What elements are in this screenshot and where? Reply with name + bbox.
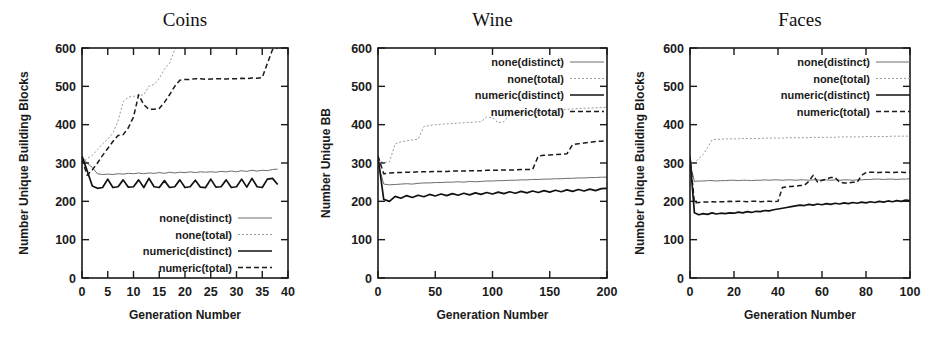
series-numerictotal xyxy=(378,141,607,174)
y-tick-label: 100 xyxy=(663,233,684,247)
plot-lines xyxy=(690,136,910,215)
series-nonedistinct xyxy=(82,157,278,174)
legend-label: numeric(distinct) xyxy=(143,245,233,257)
chart-title: Wine xyxy=(472,9,512,30)
chart-title: Faces xyxy=(778,9,821,30)
chart-coins: Coins01002003004005006000510152025303540… xyxy=(0,0,316,340)
x-tick-label: 0 xyxy=(79,285,86,299)
legend-label: none(total) xyxy=(813,73,870,85)
legend-label: none(total) xyxy=(507,73,564,85)
y-tick-label: 500 xyxy=(55,80,76,94)
legend: none(distinct)none(total)numeric(distinc… xyxy=(143,212,272,274)
y-tick-label: 100 xyxy=(351,233,372,247)
chart-wine: Wine0100200300400500600050100150200Gener… xyxy=(316,0,632,340)
x-tick-label: 80 xyxy=(859,285,873,299)
plot-lines xyxy=(378,107,607,201)
x-tick-label: 40 xyxy=(281,285,295,299)
x-tick-label: 0 xyxy=(375,285,382,299)
x-tick-label: 35 xyxy=(255,285,269,299)
x-tick-label: 10 xyxy=(127,285,141,299)
x-tick-label: 20 xyxy=(727,285,741,299)
x-tick-label: 30 xyxy=(230,285,244,299)
plot-frame xyxy=(378,48,607,278)
legend-label: none(distinct) xyxy=(797,56,870,68)
chart-panel-coins: Coins01002003004005006000510152025303540… xyxy=(0,0,316,340)
legend-label: numeric(total) xyxy=(491,106,565,118)
legend-label: none(distinct) xyxy=(159,212,232,224)
y-tick-label: 400 xyxy=(351,118,372,132)
y-tick-label: 600 xyxy=(351,42,372,56)
legend-label: numeric(distinct) xyxy=(475,89,565,101)
series-numerictotal xyxy=(82,48,278,175)
y-tick-label: 400 xyxy=(663,118,684,132)
x-tick-label: 100 xyxy=(900,285,921,299)
x-axis-label: Generation Number xyxy=(436,308,548,322)
series-nonedistinct xyxy=(378,163,607,185)
figure-container: Coins01002003004005006000510152025303540… xyxy=(0,0,946,340)
y-tick-label: 600 xyxy=(55,42,76,56)
y-tick-label: 300 xyxy=(351,157,372,171)
y-tick-label: 400 xyxy=(55,118,76,132)
x-tick-label: 200 xyxy=(597,285,618,299)
legend-label: numeric(distinct) xyxy=(781,89,871,101)
y-tick-label: 300 xyxy=(55,157,76,171)
y-tick-label: 300 xyxy=(663,157,684,171)
y-tick-label: 0 xyxy=(365,272,372,286)
x-tick-label: 15 xyxy=(152,285,166,299)
x-tick-label: 50 xyxy=(428,285,442,299)
legend-label: numeric(total) xyxy=(797,106,871,118)
legend-label: numeric(total) xyxy=(159,262,233,274)
chart-panel-wine: Wine0100200300400500600050100150200Gener… xyxy=(316,0,632,340)
y-tick-label: 0 xyxy=(677,272,684,286)
series-nonedistinct xyxy=(690,163,910,181)
x-tick-label: 150 xyxy=(539,285,560,299)
chart-faces: Faces0100200300400500600020406080100Gene… xyxy=(632,0,946,340)
y-axis-label: Number Unique Building Blocks xyxy=(633,71,647,255)
legend: none(distinct)none(total)numeric(distinc… xyxy=(781,56,910,118)
y-tick-label: 0 xyxy=(69,272,76,286)
legend-label: none(distinct) xyxy=(491,56,564,68)
series-nonetotal xyxy=(690,136,910,163)
plot-frame xyxy=(82,48,288,278)
x-axis-label: Generation Number xyxy=(744,308,856,322)
y-tick-label: 600 xyxy=(663,42,684,56)
x-axis-label: Generation Number xyxy=(129,308,241,322)
x-tick-label: 60 xyxy=(815,285,829,299)
x-tick-label: 20 xyxy=(178,285,192,299)
y-tick-label: 500 xyxy=(351,80,372,94)
x-tick-label: 5 xyxy=(104,285,111,299)
y-tick-label: 200 xyxy=(351,195,372,209)
y-tick-label: 200 xyxy=(663,195,684,209)
series-numericdistinct xyxy=(378,157,607,201)
plot-frame xyxy=(690,48,910,278)
x-tick-label: 0 xyxy=(687,285,694,299)
y-tick-label: 100 xyxy=(55,233,76,247)
chart-title: Coins xyxy=(163,9,207,30)
y-axis-label: Number Unique BB xyxy=(319,108,333,218)
y-tick-label: 200 xyxy=(55,195,76,209)
legend-label: none(total) xyxy=(175,229,232,241)
y-axis-label: Number Unique Building Blocks xyxy=(17,71,31,255)
x-tick-label: 100 xyxy=(482,285,503,299)
x-tick-label: 25 xyxy=(204,285,218,299)
x-tick-label: 40 xyxy=(771,285,785,299)
chart-panel-faces: Faces0100200300400500600020406080100Gene… xyxy=(632,0,946,340)
y-tick-label: 500 xyxy=(663,80,684,94)
